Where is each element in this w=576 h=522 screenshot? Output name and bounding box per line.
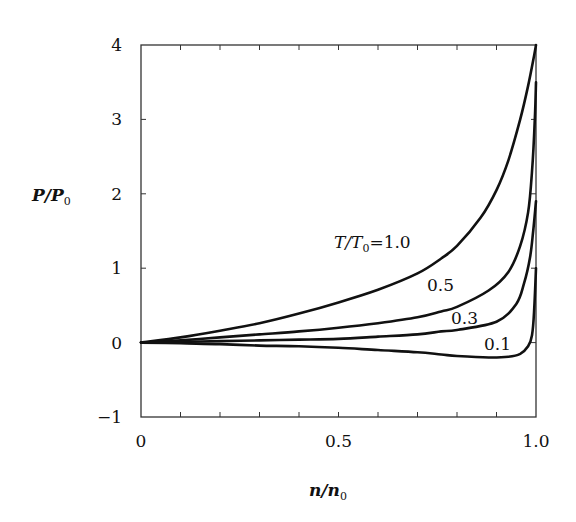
x-axis-label: n/n0: [309, 480, 347, 503]
curve-label-t0-3: 0.3: [451, 308, 478, 328]
axis-ticks: [141, 45, 536, 417]
plot-area-border: [141, 45, 536, 417]
x-axis-label-subscript: 0: [340, 490, 347, 503]
y-tick-label: 2: [111, 184, 122, 204]
curve-label-t0-1: 0.1: [484, 334, 511, 354]
curve-label-t1-0: T/T0=1.0: [334, 232, 411, 255]
y-tick-label: 1: [111, 258, 122, 278]
y-axis-label: P/P0: [31, 185, 71, 208]
chart: 00.51.0−101234 P/P0 n/n0 T/T0=1.0 0.5 0.…: [0, 0, 576, 522]
y-tick-label: −1: [97, 407, 122, 427]
x-tick-label: 0.5: [325, 431, 352, 451]
y-axis-label-subscript: 0: [64, 195, 71, 208]
x-tick-label: 1.0: [522, 431, 549, 451]
y-tick-label: 4: [111, 35, 122, 55]
tick-labels: 00.51.0−101234: [97, 35, 550, 451]
x-axis-label-main: n/n: [309, 480, 340, 500]
y-tick-label: 3: [111, 109, 122, 129]
curve-label-t1-0-main: T/T: [334, 232, 364, 252]
curve-label-t1-0-value: =1.0: [369, 232, 410, 252]
curve-label-t1-0-subscript: 0: [362, 242, 369, 255]
curve-label-t0-5: 0.5: [427, 275, 454, 295]
y-axis-label-main: P/P: [31, 185, 65, 205]
y-tick-label: 0: [111, 333, 122, 353]
x-tick-label: 0: [136, 431, 147, 451]
plot-frame: [141, 45, 536, 417]
